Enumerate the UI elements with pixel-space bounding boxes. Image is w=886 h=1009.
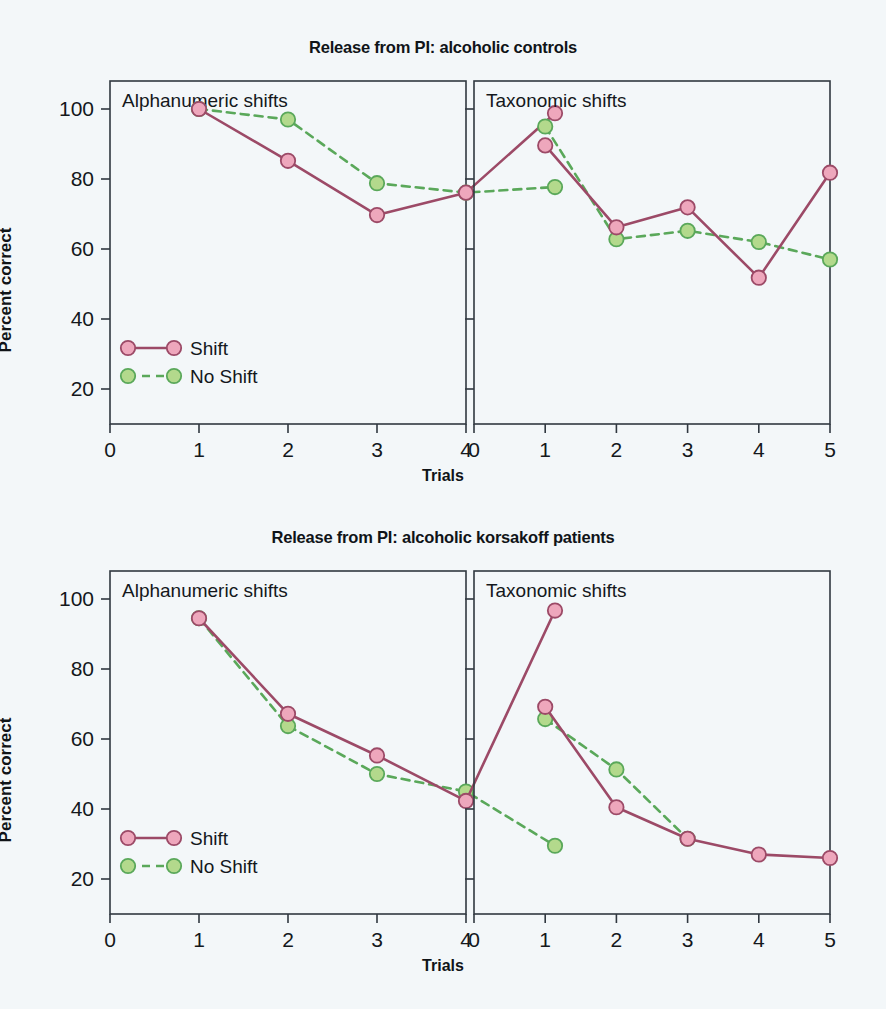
y-tick-label: 20 [71, 377, 94, 400]
x-tick-label: 0 [468, 438, 480, 461]
x-tick-label: 4 [753, 928, 765, 951]
x-tick-label: 1 [193, 928, 205, 951]
legend-label-no-shift: No Shift [190, 856, 258, 877]
x-tick-label: 0 [104, 438, 116, 461]
y-tick-label: 40 [71, 797, 94, 820]
y-tick-label: 100 [59, 97, 94, 120]
panel-label: Taxonomic shifts [486, 580, 626, 601]
legend-label-shift: Shift [190, 828, 229, 849]
panel-frame [110, 571, 466, 914]
panel-frame [110, 81, 466, 424]
chart-alcoholic-controls: Release from PI: alcoholic controls Perc… [0, 20, 886, 500]
panel-label: Taxonomic shifts [486, 90, 626, 111]
data-point-shift [459, 185, 473, 199]
x-tick-label: 2 [611, 438, 623, 461]
data-point-shift [609, 220, 623, 234]
y-tick-label: 40 [71, 307, 94, 330]
data-point-no-shift [680, 224, 694, 238]
legend-label-shift: Shift [190, 338, 229, 359]
data-point-shift [459, 794, 473, 808]
y-tick-label: 20 [71, 867, 94, 890]
legend-marker-no-shift [167, 859, 181, 873]
legend-marker-shift [121, 831, 135, 845]
legend-marker-shift [121, 341, 135, 355]
y-tick-label: 60 [71, 237, 94, 260]
data-point-shift [752, 271, 766, 285]
data-point-no-shift [538, 119, 552, 133]
data-point-shift [281, 707, 295, 721]
data-point-shift [370, 208, 384, 222]
x-tick-label: 5 [824, 438, 836, 461]
legend-marker-no-shift [121, 369, 135, 383]
legend-label-no-shift: No Shift [190, 366, 258, 387]
data-point-shift [192, 102, 206, 116]
x-tick-label: 2 [282, 438, 294, 461]
data-point-no-shift [823, 252, 837, 266]
legend-marker-no-shift [167, 369, 181, 383]
data-point-shift [609, 800, 623, 814]
data-point-shift [823, 166, 837, 180]
x-tick-label: 0 [468, 928, 480, 951]
x-tick-label: 1 [193, 438, 205, 461]
data-point-shift [192, 611, 206, 625]
data-point-shift [538, 700, 552, 714]
panel-frame [474, 571, 830, 914]
data-point-shift [281, 154, 295, 168]
x-tick-label: 4 [753, 438, 765, 461]
series-line-no-shift [199, 618, 555, 846]
x-tick-label: 0 [104, 928, 116, 951]
plot-area-top: Alphanumeric shifts2040608010001234Shift… [0, 20, 886, 500]
x-tick-label: 3 [371, 928, 383, 951]
data-point-shift [752, 847, 766, 861]
x-tick-label: 5 [824, 928, 836, 951]
data-point-shift [538, 138, 552, 152]
x-tick-label: 1 [539, 928, 551, 951]
data-point-shift [548, 603, 562, 617]
y-tick-label: 80 [71, 657, 94, 680]
data-point-no-shift [609, 762, 623, 776]
panel-label: Alphanumeric shifts [122, 580, 288, 601]
data-point-no-shift [752, 235, 766, 249]
y-tick-label: 60 [71, 727, 94, 750]
data-point-shift [370, 748, 384, 762]
figure-root: Release from PI: alcoholic controls Perc… [0, 0, 886, 1009]
y-tick-label: 80 [71, 167, 94, 190]
data-point-shift [680, 200, 694, 214]
data-point-no-shift [370, 767, 384, 781]
data-point-no-shift [548, 180, 562, 194]
legend-marker-no-shift [121, 859, 135, 873]
data-point-shift [680, 832, 694, 846]
legend-marker-shift [167, 341, 181, 355]
x-tick-label: 2 [282, 928, 294, 951]
data-point-shift [823, 851, 837, 865]
y-tick-label: 100 [59, 587, 94, 610]
x-tick-label: 1 [539, 438, 551, 461]
data-point-no-shift [281, 112, 295, 126]
chart-korsakoff-patients: Release from PI: alcoholic korsakoff pat… [0, 510, 886, 990]
data-point-no-shift [370, 176, 384, 190]
legend-marker-shift [167, 831, 181, 845]
plot-area-bottom: Alphanumeric shifts2040608010001234Shift… [0, 510, 886, 990]
x-tick-label: 3 [682, 928, 694, 951]
x-tick-label: 3 [371, 438, 383, 461]
x-tick-label: 3 [682, 438, 694, 461]
data-point-no-shift [548, 839, 562, 853]
series-line-shift [199, 109, 555, 215]
x-tick-label: 2 [611, 928, 623, 951]
